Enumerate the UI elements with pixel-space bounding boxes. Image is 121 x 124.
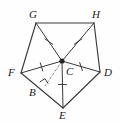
side-de: [63, 72, 100, 108]
vertex-label-d: D: [104, 67, 112, 78]
center-point-dot: [59, 58, 64, 63]
vertex-label-g: G: [29, 9, 37, 20]
pentagon-diagram-svg: [0, 0, 121, 124]
geometry-figure: G H F D C B E: [0, 0, 121, 124]
vertex-label-f: F: [8, 67, 15, 78]
vertex-label-e: E: [59, 110, 66, 121]
vertex-label-h: H: [92, 9, 100, 20]
foot-label-b: B: [29, 87, 36, 98]
side-ef: [21, 73, 63, 108]
side-hd: [94, 23, 100, 72]
tick-mark-ch: [74, 39, 82, 45]
side-fg: [21, 23, 36, 73]
tick-mark-cg: [45, 39, 53, 44]
center-label-c: C: [66, 66, 73, 77]
